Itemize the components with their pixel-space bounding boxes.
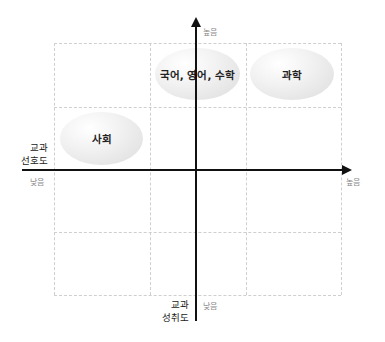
arrow-right-icon <box>342 165 352 175</box>
y-axis-high-label: 높음 <box>203 26 217 37</box>
arrow-up-icon <box>191 17 201 27</box>
grid-line-horizontal <box>54 43 341 44</box>
x-axis-title-line1: 교과 <box>10 141 48 154</box>
y-axis <box>195 26 197 321</box>
bubble-social-studies: 사회 <box>60 112 143 165</box>
bubble-science: 과학 <box>250 48 334 100</box>
grid-line-horizontal <box>54 232 341 233</box>
grid-line-horizontal <box>54 295 341 296</box>
bubble-korean-english-math: 국어, 영어, 수학 <box>155 48 240 100</box>
grid-line-horizontal <box>54 107 341 108</box>
y-axis-title-line1: 교과 <box>150 298 189 311</box>
x-axis-low-label: 낮음 <box>30 176 44 187</box>
x-axis-high-label: 높음 <box>346 176 360 187</box>
x-axis-title-line2: 선호도 <box>10 154 48 167</box>
x-axis <box>22 169 344 171</box>
y-axis-low-label: 낮음 <box>203 300 217 311</box>
y-axis-title: 교과 성취도 <box>150 298 189 324</box>
y-axis-title-line2: 성취도 <box>150 311 189 324</box>
quadrant-diagram: 국어, 영어, 수학 과학 사회 높음 교과 선호도 낮음 높음 교과 성취도 … <box>0 0 385 342</box>
x-axis-title: 교과 선호도 <box>10 141 48 167</box>
bubble-label: 과학 <box>282 67 302 82</box>
bubble-label: 사회 <box>92 131 112 146</box>
bubble-label: 국어, 영어, 수학 <box>160 67 235 82</box>
